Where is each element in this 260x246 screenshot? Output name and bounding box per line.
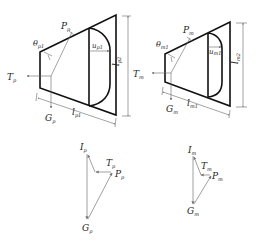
left-label-u: up1 bbox=[92, 42, 103, 51]
right-poly-p bbox=[194, 176, 211, 204]
right-label-lwidth: lm1 bbox=[187, 98, 198, 109]
right-theta-mark bbox=[168, 54, 175, 58]
right-poly-label-t: Tm bbox=[201, 161, 212, 172]
right-d-shape bbox=[208, 33, 222, 97]
left-label-lwidth: lp1 bbox=[72, 107, 81, 119]
right-lwidth-ext1 bbox=[162, 87, 163, 95]
left-label-lheight: lp2 bbox=[111, 57, 123, 66]
left-p-line bbox=[51, 32, 72, 76]
left-d-shape bbox=[89, 28, 110, 106]
left-poly-label-g: Gp bbox=[82, 223, 93, 235]
left-label-g: Gp bbox=[45, 113, 56, 125]
right-p-tick bbox=[187, 37, 192, 41]
left-label-t: Tp bbox=[7, 72, 17, 84]
right-poly-label-p: Pm bbox=[211, 171, 223, 182]
right-label-theta: θm1 bbox=[156, 40, 169, 50]
left-poly-p bbox=[88, 173, 112, 219]
force-diagram: Pp θp1 up1 Tp Gp lp1 lp2 Pm θm1 um1 Tm G… bbox=[0, 0, 260, 246]
left-poly-to-i bbox=[88, 155, 95, 172]
left-trapezoid bbox=[40, 15, 116, 115]
right-poly-label-i: Im bbox=[187, 145, 197, 156]
right-trapezoid bbox=[165, 22, 230, 106]
right-poly-to-i bbox=[194, 157, 201, 175]
left-block: Pp θp1 up1 Tp Gp lp1 lp2 bbox=[7, 15, 131, 127]
right-theta-mark-2 bbox=[171, 57, 172, 62]
left-force-polygon: Ip Tp Pp Gp bbox=[79, 142, 125, 235]
right-label-p: Pm bbox=[182, 25, 194, 36]
left-label-theta: θp1 bbox=[33, 39, 44, 50]
left-theta-mark-2 bbox=[48, 55, 50, 60]
left-label-p: Pp bbox=[60, 21, 71, 33]
left-lwidth-ext2 bbox=[115, 118, 116, 127]
right-p-line bbox=[171, 38, 190, 73]
left-poly-label-p: Pp bbox=[114, 169, 125, 181]
right-poly-label-g: Gm bbox=[187, 206, 199, 217]
right-force-polygon: Im Tm Pm Gm bbox=[187, 145, 223, 217]
left-poly-label-i: Ip bbox=[79, 142, 88, 154]
left-lwidth-ext1 bbox=[36, 93, 37, 101]
right-label-g: Gm bbox=[166, 104, 178, 115]
right-label-t: Tm bbox=[133, 69, 144, 80]
right-block: Pm θm1 um1 Tm Gm lm1 lm2 bbox=[133, 22, 247, 118]
right-label-lheight: lm2 bbox=[230, 53, 241, 64]
right-lwidth-ext2 bbox=[229, 110, 230, 118]
right-label-u: um1 bbox=[209, 48, 221, 56]
